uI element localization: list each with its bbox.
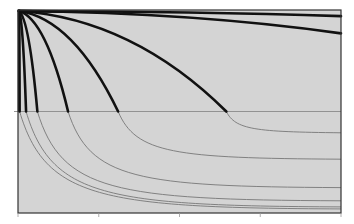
chart-plot: [0, 0, 354, 224]
top-edge-convergence: [18, 11, 78, 12]
x-axis-ticks: [18, 213, 341, 217]
figure: [0, 0, 354, 224]
